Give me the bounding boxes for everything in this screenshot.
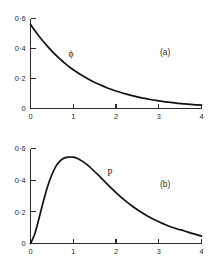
y-tick-label: 0·4 <box>15 44 26 53</box>
x-tick-label: 4 <box>199 112 203 121</box>
figure-container: 0123400·20·40·6ϕ(a) 0123400·20·40·6P(b) <box>0 0 219 263</box>
x-tick-label: 0 <box>28 112 32 121</box>
series-label-a: ϕ <box>69 49 74 59</box>
y-tick-label: 0 <box>21 239 25 248</box>
curve-b <box>31 157 202 244</box>
series-label-b: P <box>107 168 112 178</box>
y-tick-label: 0·2 <box>15 74 26 83</box>
panel-label-b: (b) <box>160 179 170 189</box>
panel-label-a: (a) <box>160 47 170 57</box>
y-tick-label: 0 <box>21 104 25 113</box>
x-tick-label: 2 <box>114 247 118 256</box>
x-tick-label: 1 <box>71 112 75 121</box>
panel-a: 0123400·20·40·6ϕ(a) <box>15 14 204 120</box>
y-tick-label: 0·2 <box>15 208 26 217</box>
panel-b: 0123400·20·40·6P(b) <box>15 144 204 255</box>
curve-a <box>31 25 202 106</box>
x-tick-label: 0 <box>28 247 32 256</box>
x-tick-label: 3 <box>157 112 161 121</box>
y-tick-label: 0·4 <box>15 176 26 185</box>
two-panel-line-chart: 0123400·20·40·6ϕ(a) 0123400·20·40·6P(b) <box>0 0 219 263</box>
x-tick-label: 2 <box>114 112 118 121</box>
y-tick-label: 0·6 <box>15 14 26 23</box>
x-tick-label: 1 <box>71 247 75 256</box>
x-tick-label: 4 <box>199 247 203 256</box>
y-tick-label: 0·6 <box>15 144 26 153</box>
x-tick-label: 3 <box>157 247 161 256</box>
